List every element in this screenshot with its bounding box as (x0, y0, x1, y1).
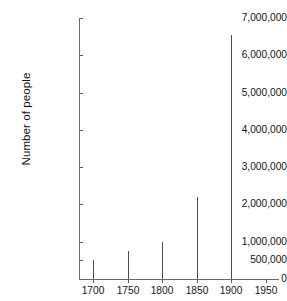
y-axis-line (79, 18, 80, 280)
x-tick-label: 1700 (73, 285, 113, 296)
y-tick-label: 7,000,000 (221, 13, 287, 23)
bar (197, 197, 198, 279)
y-axis-title: Number of people (17, 39, 35, 199)
x-axis-line (79, 279, 279, 280)
x-tick-label: 1900 (211, 285, 251, 296)
bar (162, 242, 163, 279)
x-tick-label: 1800 (142, 285, 182, 296)
bar (93, 260, 94, 279)
bar (128, 251, 129, 279)
population-bar-chart: Number of people 0500,0001,000,0002,000,… (0, 0, 287, 301)
x-tick-label: 1950 (246, 285, 286, 296)
bar (231, 35, 232, 279)
